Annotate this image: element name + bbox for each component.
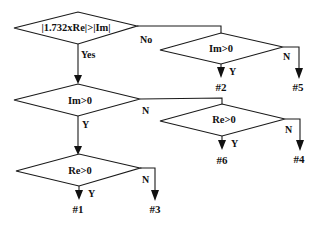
decision-no-branch: Im>0 <box>160 33 283 64</box>
arrow-down-icon <box>296 140 304 151</box>
arrow-down-icon <box>74 75 82 84</box>
flowchart-svg: |1.732xRe|>|Im| No Yes Im>0 Y #2 N #5 Im… <box>0 0 314 229</box>
flowchart: |1.732xRe|>|Im| No Yes Im>0 Y #2 N #5 Im… <box>0 0 314 229</box>
outcome-1: #1 <box>73 203 84 215</box>
edge-label-root-yes: Yes <box>81 49 96 60</box>
edge-label-yn-y: Y <box>231 138 239 149</box>
edge-label-yes-n: N <box>142 105 150 116</box>
edge-label-root-no: No <box>140 34 152 45</box>
edge-label-no-y: Y <box>229 66 237 77</box>
outcome-6: #6 <box>217 154 229 166</box>
edge-label-yn-n: N <box>285 124 293 135</box>
decision-yes-branch-label: Im>0 <box>68 95 92 106</box>
arrow-down-icon <box>75 190 83 200</box>
outcome-5: #5 <box>293 81 305 93</box>
decision-yes-branch: Im>0 <box>14 84 140 116</box>
edge-label-yes-y: Y <box>82 119 90 130</box>
arrow-down-icon <box>151 190 159 201</box>
arrow-down-icon <box>295 68 303 79</box>
arrow-down-icon <box>218 140 226 150</box>
decision-no-branch-label: Im>0 <box>209 43 233 54</box>
decision-yes-yes-branch-label: Re>0 <box>68 165 91 176</box>
edge-label-yy-y: Y <box>88 188 96 199</box>
arrow-down-icon <box>217 67 225 78</box>
decision-yes-yes-branch: Re>0 <box>16 154 140 186</box>
edge-root-no <box>137 26 221 33</box>
decision-root-label: |1.732xRe|>|Im| <box>41 22 110 33</box>
outcome-4: #4 <box>294 153 306 165</box>
edge-yes-n <box>140 98 222 104</box>
decision-yes-no-branch-label: Re>0 <box>212 114 235 125</box>
edge-label-no-n: N <box>283 51 291 62</box>
outcome-3: #3 <box>150 203 162 215</box>
outcome-2: #2 <box>216 81 228 93</box>
decision-yes-no-branch: Re>0 <box>160 104 285 136</box>
decision-root: |1.732xRe|>|Im| <box>14 12 137 44</box>
edge-label-yy-n: N <box>142 174 150 185</box>
